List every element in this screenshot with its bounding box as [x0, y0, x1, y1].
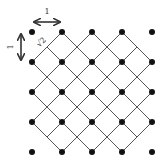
lattice-point [149, 59, 155, 65]
lattice-point [89, 29, 95, 35]
lattice-point [29, 149, 35, 155]
lattice-point [89, 89, 95, 95]
lattice-point [59, 149, 65, 155]
lattice-point [29, 29, 35, 35]
lattice-point [89, 149, 95, 155]
diagonal-spacing-label: √2 [34, 35, 48, 49]
lattice-point [29, 119, 35, 125]
lattice-point [29, 59, 35, 65]
lattice-point [149, 89, 155, 95]
lattice-point [149, 149, 155, 155]
lattice-point [59, 119, 65, 125]
horizontal-spacing-annotation: 1 [35, 7, 59, 22]
vertical-spacing-annotation: 1 [6, 35, 21, 59]
lattice-point [119, 29, 125, 35]
lattice-point [149, 29, 155, 35]
horizontal-spacing-label: 1 [44, 7, 49, 16]
lattice-point [89, 59, 95, 65]
lattice-point [119, 119, 125, 125]
lattice-point [59, 29, 65, 35]
vertical-spacing-label: 1 [6, 44, 15, 49]
lattice-point [119, 89, 125, 95]
lattice-point [119, 149, 125, 155]
lattice-point [29, 89, 35, 95]
lattice-point [89, 119, 95, 125]
lattice-point [59, 89, 65, 95]
lattice-point [149, 119, 155, 125]
lattice-point [59, 59, 65, 65]
lattice-point [119, 59, 125, 65]
lattice-diagram: 1 1 √2 [0, 0, 163, 167]
